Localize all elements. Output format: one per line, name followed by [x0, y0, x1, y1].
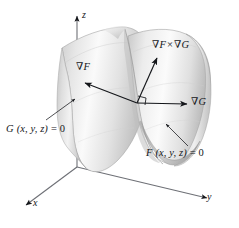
cross-symbol-1: F [159, 39, 166, 50]
cross-symbol-2: G [181, 39, 189, 50]
surface-G-symbol: G [6, 123, 14, 134]
y-axis-label: y [207, 192, 212, 202]
grad-G-label: ∇G [191, 97, 206, 108]
grad-F-symbol: F [83, 61, 90, 72]
gradient-surfaces-figure: z x y ∇F ∇G ∇F×∇G G(x, y, z)= 0 F(x, y, … [0, 0, 239, 228]
surface-G-label: G(x, y, z)= 0 [6, 124, 65, 135]
surface-G-equals: = 0 [51, 123, 65, 134]
grad-F-cross-grad-G-label: ∇F×∇G [152, 40, 189, 51]
surface-F-args: (x, y, z) [156, 147, 187, 158]
cross-times-sign: × [166, 39, 174, 50]
surface-F-equals: = 0 [190, 147, 204, 158]
surface-G-args: (x, y, z) [17, 123, 48, 134]
surface-F-label: F(x, y, z)= 0 [146, 148, 204, 159]
figure-canvas [0, 0, 239, 228]
grad-F-label: ∇F [76, 62, 90, 73]
x-axis-label: x [33, 198, 38, 208]
surface-F-symbol: F [146, 147, 153, 158]
grad-G-symbol: G [198, 96, 206, 107]
z-axis-label: z [82, 10, 86, 20]
